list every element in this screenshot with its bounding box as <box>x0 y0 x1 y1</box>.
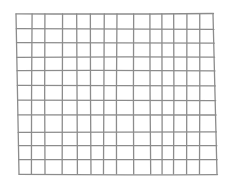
grid-line-horizontal <box>16 29 214 30</box>
hand-drawn-grid <box>0 0 227 181</box>
grid-drawing <box>0 0 227 181</box>
grid-border-horizontal <box>16 13 213 14</box>
grid-border-vertical <box>213 14 217 174</box>
grid-line-vertical <box>31 14 32 174</box>
grid-border-vertical <box>16 14 19 174</box>
grid-line-vertical <box>103 14 104 174</box>
grid-line-vertical <box>116 14 117 174</box>
grid-line-vertical <box>90 14 91 174</box>
grid-line-vertical <box>77 14 78 174</box>
grid-line-vertical <box>150 14 151 174</box>
